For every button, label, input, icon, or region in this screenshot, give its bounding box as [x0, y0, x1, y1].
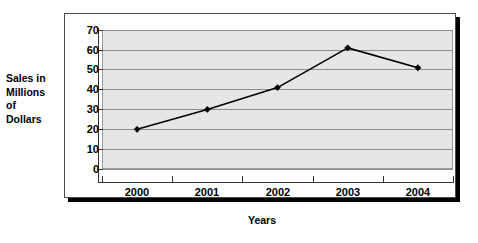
y-tick-label-20: 20	[73, 124, 99, 135]
y-axis-title: Sales in Millions of Dollars	[6, 72, 64, 126]
x-tick-mark-1	[172, 176, 173, 183]
x-axis-line	[98, 182, 453, 183]
x-tick-mark-2	[242, 176, 243, 183]
chart-frame: 70 60 50 40 30 20 10 0 2000 2001 2002 20…	[64, 13, 456, 198]
gridline-30	[102, 109, 453, 110]
y-axis-title-line-1: Sales in	[6, 72, 64, 86]
x-tick-mark-4	[383, 176, 384, 183]
gridline-40	[102, 89, 453, 90]
y-tick-label-10: 10	[73, 144, 99, 155]
x-tick-mark-5	[453, 176, 454, 183]
y-axis-title-line-2: Millions	[6, 86, 64, 100]
y-tick-label-30: 30	[73, 104, 99, 115]
x-tick-label-2000: 2000	[107, 186, 167, 198]
x-tick-label-2002: 2002	[248, 186, 308, 198]
gridline-20	[102, 129, 453, 130]
x-tick-mark-0	[102, 176, 103, 183]
y-tick-label-0: 0	[73, 164, 99, 175]
x-tick-mark-3	[313, 176, 314, 183]
gridline-10	[102, 149, 453, 150]
y-tick-label-60: 60	[73, 45, 99, 56]
gridline-60	[102, 50, 453, 51]
gridline-50	[102, 69, 453, 70]
gridline-70	[102, 30, 453, 31]
y-tick-label-50: 50	[73, 64, 99, 75]
x-tick-label-2003: 2003	[318, 186, 378, 198]
x-axis-title: Years	[0, 214, 478, 226]
y-tick-label-40: 40	[73, 84, 99, 95]
y-axis-title-line-3: of	[6, 99, 64, 113]
y-axis-title-line-4: Dollars	[6, 113, 64, 127]
gridline-0	[102, 169, 453, 170]
x-tick-label-2001: 2001	[177, 186, 237, 198]
x-tick-label-2004: 2004	[388, 186, 448, 198]
y-tick-label-70: 70	[73, 25, 99, 36]
